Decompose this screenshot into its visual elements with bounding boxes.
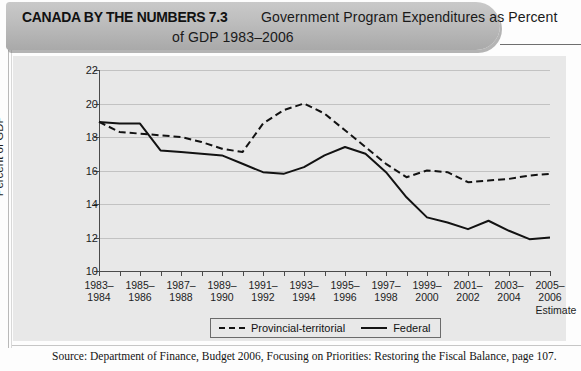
plot-area: 10121416182022 — [99, 70, 550, 271]
y-tick-label-20: 20 — [68, 98, 98, 110]
banner-title-part2: of GDP 1983–2006 — [172, 28, 294, 47]
chart-footer-rule — [12, 345, 581, 346]
x-tick-label-2005–2006: 2005–2006 — [528, 279, 572, 303]
chart-container: Percent of GDP 10121416182022 1983–19841… — [13, 56, 566, 341]
x-tick-label-2003–2004: 2003–2004 — [487, 279, 531, 303]
y-tick-label-16: 16 — [68, 165, 98, 177]
legend-item-federal: Federal — [361, 322, 430, 334]
page-border-left-outer — [8, 30, 9, 348]
y-tick-label-22: 22 — [68, 64, 98, 76]
x-tick-label-1993–1994: 1993–1994 — [282, 279, 326, 303]
x-tick-label-2001–2002: 2001–2002 — [446, 279, 490, 303]
x-tick-label-1989–1990: 1989–1990 — [200, 279, 244, 303]
banner-title-part1: Government Program Expenditures as Perce… — [261, 7, 557, 27]
legend-item-provincial: Provincial-territorial — [219, 322, 345, 334]
y-tick-label-18: 18 — [68, 131, 98, 143]
dashed-line-swatch-icon — [219, 327, 245, 329]
series-line-provincial-territorial — [99, 104, 550, 183]
x-tick-label-1995–1996: 1995–1996 — [323, 279, 367, 303]
x-tick-label-1983–1984: 1983–1984 — [77, 279, 121, 303]
page-root: CANADA BY THE NUMBERS 7.3 Government Pro… — [0, 0, 581, 371]
x-axis-line — [99, 271, 550, 272]
page-border-left-inner — [11, 30, 12, 348]
chart-legend: Provincial-territorial Federal — [210, 318, 441, 338]
x-tick-label-1999–2000: 1999–2000 — [405, 279, 449, 303]
solid-line-swatch-icon — [361, 327, 387, 329]
x-tick-label-1991–1992: 1991–1992 — [241, 279, 285, 303]
source-citation: Source: Department of Finance, Budget 20… — [52, 350, 557, 362]
y-tick-label-10: 10 — [68, 265, 98, 277]
chart-title-banner: CANADA BY THE NUMBERS 7.3 Government Pro… — [6, 2, 500, 50]
x-tick-label-1987–1988: 1987–1988 — [159, 279, 203, 303]
banner-line-1: CANADA BY THE NUMBERS 7.3 Government Pro… — [22, 6, 486, 27]
series-lines — [99, 70, 550, 271]
x-tick-2005–2006 — [550, 271, 551, 276]
banner-trailing-rule — [500, 44, 581, 45]
x-tick-label-1997–1998: 1997–1998 — [364, 279, 408, 303]
legend-label-federal: Federal — [393, 322, 430, 334]
y-tick-label-12: 12 — [68, 232, 98, 244]
estimate-note: Estimate — [526, 304, 581, 316]
banner-line-2: of GDP 1983–2006 — [22, 27, 486, 47]
legend-label-provincial: Provincial-territorial — [251, 322, 345, 334]
y-axis-title: Percent of GDP — [0, 116, 5, 197]
x-tick-label-1985–1986: 1985–1986 — [118, 279, 162, 303]
y-tick-label-14: 14 — [68, 198, 98, 210]
banner-kicker: CANADA BY THE NUMBERS 7.3 — [22, 7, 227, 27]
